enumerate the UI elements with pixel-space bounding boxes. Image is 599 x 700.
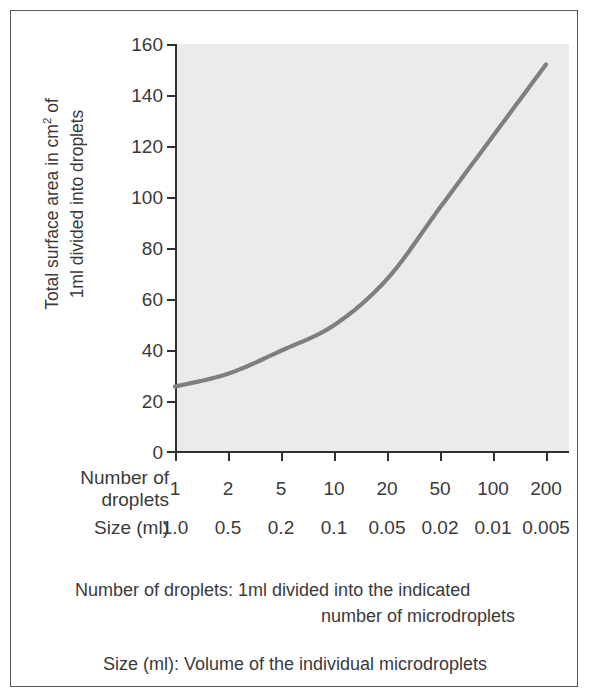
- caption-number-of-droplets: Number of droplets: 1ml divided into the…: [75, 577, 515, 629]
- y-tick-label: 40: [105, 341, 163, 360]
- y-tick-label: 20: [105, 392, 163, 411]
- y-axis-title-line1: Total surface area in cm2 of: [42, 98, 62, 310]
- y-axis-tick: [167, 451, 175, 453]
- figure-inner: Total surface area in cm2 of1ml divided …: [11, 11, 579, 688]
- y-axis-tick: [167, 95, 175, 97]
- plot-area: [175, 44, 569, 453]
- caption1-line1: Number of droplets: 1ml divided into the…: [75, 577, 515, 603]
- x-axis-tick: [387, 453, 389, 461]
- caption-block: Number of droplets: 1ml divided into the…: [11, 577, 579, 677]
- y-axis-tick: [167, 146, 175, 148]
- y-axis-title-tail: of: [42, 98, 62, 117]
- y-axis-tick-labels: 160 140 120 100 80 60 40 20 0: [103, 44, 163, 453]
- caption1-line2: number of microdroplets: [75, 603, 515, 629]
- x-axis-cell: 0.005: [511, 517, 581, 539]
- x-axis-tick: [493, 453, 495, 461]
- y-tick-label: 0: [105, 443, 163, 462]
- x-axis-row-size-ml: Size (ml) 1.0 0.5 0.2 0.1 0.05 0.02 0.01…: [19, 517, 571, 557]
- y-axis-tick: [167, 401, 175, 403]
- x-axis-row-number-of-droplets: Number ofdroplets 1 2 5 10 20 50 100 200: [19, 467, 571, 507]
- caption-size-ml: Size (ml): Volume of the individual micr…: [11, 651, 579, 677]
- x-axis-table: Number ofdroplets 1 2 5 10 20 50 100 200…: [19, 467, 571, 551]
- y-axis-title: Total surface area in cm2 of1ml divided …: [40, 34, 90, 374]
- y-axis-title-line2: 1ml divided into droplets: [67, 110, 87, 299]
- y-axis-tick: [167, 44, 175, 46]
- y-axis-tick: [167, 197, 175, 199]
- y-tick-label: 80: [105, 239, 163, 258]
- y-tick-label: 60: [105, 290, 163, 309]
- y-axis-title-text: Total surface area in cm: [42, 124, 62, 310]
- y-tick-label: 160: [105, 35, 163, 54]
- y-tick-label: 140: [105, 86, 163, 105]
- x-axis-tick: [281, 453, 283, 461]
- y-tick-label: 100: [105, 188, 163, 207]
- data-curve: [175, 44, 569, 453]
- x-axis-cell: 200: [511, 478, 581, 500]
- y-axis-tick: [167, 350, 175, 352]
- x-axis-tick: [334, 453, 336, 461]
- x-axis-tick: [228, 453, 230, 461]
- x-axis-tick: [546, 453, 548, 461]
- y-axis-tick: [167, 248, 175, 250]
- y-tick-label: 120: [105, 137, 163, 156]
- y-axis-title-superscript: 2: [41, 118, 53, 124]
- x-axis-tick: [175, 453, 177, 461]
- figure-border: Total surface area in cm2 of1ml divided …: [10, 10, 578, 687]
- x-axis-tick: [440, 453, 442, 461]
- y-axis-tick: [167, 299, 175, 301]
